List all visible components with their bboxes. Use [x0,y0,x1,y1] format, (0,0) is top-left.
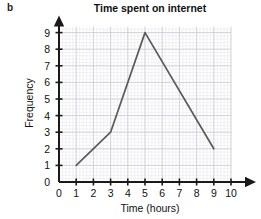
axes [54,16,256,188]
y-tick-label: 6 [44,76,50,88]
y-tick-label: 4 [44,110,50,122]
y-tick-label: 7 [44,60,50,72]
x-tick-label: 10 [225,187,237,199]
x-tick-label: 8 [194,187,200,199]
x-tick-label: 3 [108,187,114,199]
x-tick-label: 9 [211,187,217,199]
chart-figure: b Time spent on internet Frequency Time … [0,0,261,219]
x-tick-label: 0 [56,187,62,199]
x-tick-label: 2 [90,187,96,199]
y-tick-label: 1 [44,159,50,171]
x-tick-label: 1 [73,187,79,199]
plot-area: 0123456789100123456789 [0,0,261,219]
x-tick-label: 4 [125,187,131,199]
y-tick-label: 0 [44,176,50,188]
y-tick-label: 3 [44,126,50,138]
x-tick-label: 6 [159,187,165,199]
y-tick-label: 2 [44,143,50,155]
x-tick-label: 5 [142,187,148,199]
y-tick-label: 9 [44,27,50,39]
y-tick-label: 8 [44,43,50,55]
y-tick-label: 5 [44,93,50,105]
x-tick-label: 7 [176,187,182,199]
